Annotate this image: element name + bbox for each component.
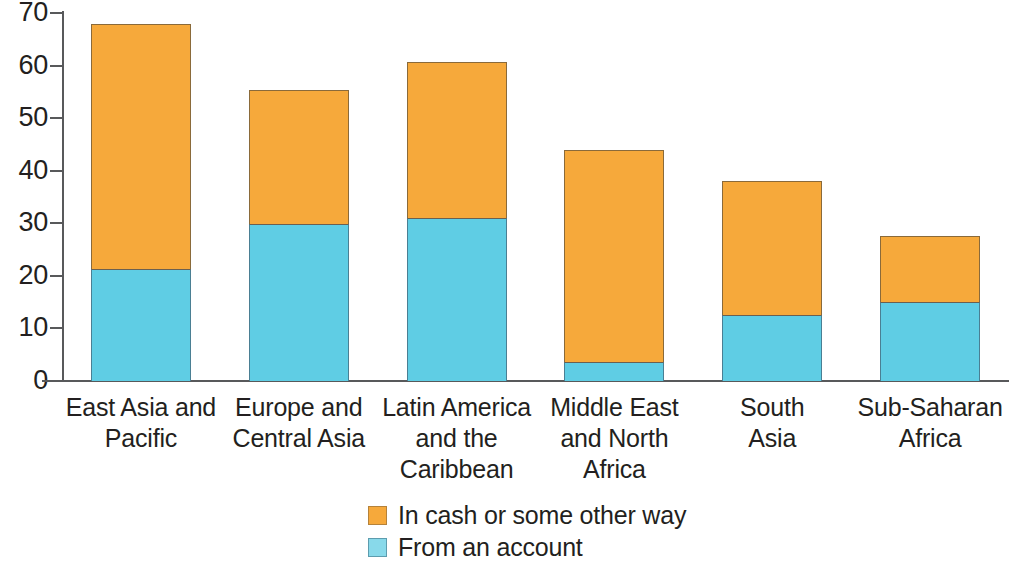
- legend-label-in-cash: In cash or some other way: [398, 503, 686, 528]
- y-axis-tick: [50, 222, 62, 224]
- y-axis-tick-label: 20: [0, 262, 48, 289]
- bar-group[interactable]: [880, 236, 980, 381]
- x-axis-category-label: Middle Eastand NorthAfrica: [536, 392, 694, 485]
- bar-group[interactable]: [407, 62, 507, 381]
- y-axis-tick-label-text: 10: [2, 314, 48, 341]
- y-axis-tick-label-text: 40: [2, 157, 48, 184]
- x-axis-category-label-line: Pacific: [62, 423, 220, 454]
- x-axis-category-label-line: Caribbean: [378, 454, 536, 485]
- x-axis-category-label: SouthAsia: [693, 392, 851, 454]
- x-axis-category-label-line: Africa: [851, 423, 1009, 454]
- legend-item-from-account[interactable]: From an account: [368, 532, 686, 561]
- y-axis-tick-label: 0: [0, 367, 48, 394]
- x-axis-category-labels: East Asia andPacificEurope andCentral As…: [62, 392, 1009, 492]
- x-axis-category-label-line: Africa: [536, 454, 694, 485]
- x-axis-category-label-line: South: [693, 392, 851, 423]
- x-axis-category-label-line: Middle East: [536, 392, 694, 423]
- x-axis-category-label-line: and North: [536, 423, 694, 454]
- bar-group[interactable]: [249, 90, 349, 381]
- bar-segment-from-account[interactable]: [880, 302, 980, 381]
- bar-segment-in-cash[interactable]: [407, 62, 507, 218]
- x-axis-category-label-line: Sub-Saharan: [851, 392, 1009, 423]
- y-axis-tick: [50, 12, 62, 14]
- y-axis-tick: [50, 275, 62, 277]
- y-axis-tick-label-text: 70: [2, 0, 48, 26]
- y-axis-tick-label-text: 50: [2, 104, 48, 131]
- bar-group[interactable]: [722, 181, 822, 381]
- bar-segment-in-cash[interactable]: [91, 24, 191, 270]
- x-axis-category-label: Sub-SaharanAfrica: [851, 392, 1009, 454]
- bar-group[interactable]: [564, 150, 664, 381]
- x-axis-category-label-line: East Asia and: [62, 392, 220, 423]
- y-axis-tick-label: 70: [0, 0, 48, 26]
- legend-item-in-cash[interactable]: In cash or some other way: [368, 500, 686, 530]
- x-axis-category-label-line: Asia: [693, 423, 851, 454]
- y-axis-tick-label: 10: [0, 314, 48, 341]
- bar-segment-from-account[interactable]: [407, 218, 507, 381]
- bar-group[interactable]: [91, 24, 191, 381]
- x-axis-category-label-line: Central Asia: [220, 423, 378, 454]
- x-axis-category-label: Latin Americaand theCaribbean: [378, 392, 536, 485]
- x-axis-category-label: Europe andCentral Asia: [220, 392, 378, 454]
- y-axis-tick-label-text: 30: [2, 209, 48, 236]
- x-axis-category-label-line: Europe and: [220, 392, 378, 423]
- plot-area: [62, 13, 1009, 381]
- y-axis-tick-label: 40: [0, 157, 48, 184]
- y-axis-tick-label-text: 20: [2, 262, 48, 289]
- y-axis-tick: [50, 117, 62, 119]
- blue-swatch-icon: [368, 538, 387, 557]
- y-axis-tick: [50, 170, 62, 172]
- x-axis-category-label: East Asia andPacific: [62, 392, 220, 454]
- bar-segment-in-cash[interactable]: [722, 181, 822, 315]
- x-axis-category-label-line: Latin America: [378, 392, 536, 423]
- stacked-bar-chart: 010203040506070 East Asia andPacificEuro…: [0, 0, 1011, 561]
- bar-segment-from-account[interactable]: [91, 269, 191, 381]
- bar-segment-in-cash[interactable]: [249, 90, 349, 225]
- chart-legend: In cash or some other way From an accoun…: [368, 500, 686, 561]
- y-axis-tick: [50, 327, 62, 329]
- y-axis-tick-label: 60: [0, 52, 48, 79]
- bar-segment-from-account[interactable]: [564, 362, 664, 381]
- y-axis-tick-label-text: 60: [2, 52, 48, 79]
- bar-segment-from-account[interactable]: [722, 315, 822, 381]
- y-axis-tick-label: 50: [0, 104, 48, 131]
- bar-segment-in-cash[interactable]: [564, 150, 664, 362]
- y-axis-tick: [50, 65, 62, 67]
- x-axis-category-label-line: and the: [378, 423, 536, 454]
- bar-segment-in-cash[interactable]: [880, 236, 980, 302]
- y-axis-tick-label: 30: [0, 209, 48, 236]
- bar-segment-from-account[interactable]: [249, 224, 349, 381]
- orange-swatch-icon: [368, 506, 387, 525]
- legend-label-from-account: From an account: [398, 535, 583, 560]
